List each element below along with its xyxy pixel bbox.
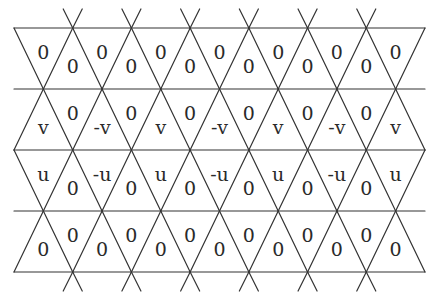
stub-bottom-l-2 bbox=[122, 272, 132, 291]
triangle-label-r4-2: 0 bbox=[67, 224, 79, 246]
triangle-label-r1-11: 0 bbox=[331, 41, 343, 63]
stub-bottom-r-5 bbox=[308, 272, 318, 291]
stub-top-r-5 bbox=[308, 9, 318, 28]
triangle-label-r3-4: 0 bbox=[125, 177, 137, 199]
triangle-label-r1-8: 0 bbox=[243, 55, 255, 77]
stub-top-r-6 bbox=[366, 9, 376, 28]
stub-top-r-3 bbox=[190, 9, 200, 28]
triangle-label-r4-5: 0 bbox=[155, 238, 167, 260]
stub-bottom-l-3 bbox=[181, 272, 191, 291]
triangle-label-r4-13: 0 bbox=[390, 238, 402, 260]
triangle-label-r2-6: 0 bbox=[184, 102, 196, 124]
triangle-label-r1-13: 0 bbox=[390, 41, 402, 63]
triangle-label-r2-8: 0 bbox=[243, 102, 255, 124]
stub-bottom-l-5 bbox=[298, 272, 308, 291]
triangle-label-r4-6: 0 bbox=[184, 224, 196, 246]
triangle-label-r4-4: 0 bbox=[125, 224, 137, 246]
triangle-label-r3-7: -u bbox=[210, 163, 229, 185]
stub-bottom-r-6 bbox=[366, 272, 376, 291]
triangle-label-r1-6: 0 bbox=[184, 55, 196, 77]
triangle-label-r4-8: 0 bbox=[243, 224, 255, 246]
stub-top-l-1 bbox=[63, 9, 73, 28]
triangle-label-r3-2: 0 bbox=[67, 177, 79, 199]
triangle-label-r3-3: -u bbox=[93, 163, 112, 185]
triangle-label-r1-9: 0 bbox=[272, 41, 284, 63]
triangle-label-r1-12: 0 bbox=[360, 55, 372, 77]
triangle-label-r4-1: 0 bbox=[37, 238, 49, 260]
triangle-label-r1-10: 0 bbox=[302, 55, 314, 77]
triangle-label-r1-3: 0 bbox=[96, 41, 108, 63]
stub-top-l-2 bbox=[122, 9, 132, 28]
stub-bottom-l-4 bbox=[239, 272, 249, 291]
triangle-label-r4-7: 0 bbox=[213, 238, 225, 260]
stub-bottom-r-1 bbox=[73, 272, 83, 291]
triangle-label-r2-9: v bbox=[272, 116, 284, 138]
stub-bottom-l-1 bbox=[63, 272, 73, 291]
triangle-label-r1-1: 0 bbox=[37, 41, 49, 63]
triangle-label-r4-10: 0 bbox=[302, 224, 314, 246]
triangle-label-r1-2: 0 bbox=[67, 55, 79, 77]
triangle-label-r2-1: v bbox=[37, 116, 49, 138]
stub-top-l-3 bbox=[181, 9, 191, 28]
lattice-svg: 0000000000000v0-v0v0-v0v0-v0vu0-u0u0-u0u… bbox=[0, 0, 441, 297]
triangle-label-r2-10: 0 bbox=[302, 102, 314, 124]
triangle-labels: 0000000000000v0-v0v0-v0v0-v0vu0-u0u0-u0u… bbox=[37, 41, 402, 259]
triangle-label-r3-11: -u bbox=[328, 163, 347, 185]
triangle-label-r2-4: 0 bbox=[125, 102, 137, 124]
stub-top-l-4 bbox=[239, 9, 249, 28]
stub-top-r-4 bbox=[249, 9, 259, 28]
triangle-label-r3-12: 0 bbox=[360, 177, 372, 199]
stub-top-r-1 bbox=[73, 9, 83, 28]
triangle-label-r4-12: 0 bbox=[360, 224, 372, 246]
triangle-label-r3-9: u bbox=[272, 163, 284, 185]
triangle-label-r3-1: u bbox=[37, 163, 49, 185]
triangular-lattice-diagram: 0000000000000v0-v0v0-v0v0-v0vu0-u0u0-u0u… bbox=[0, 0, 441, 297]
triangle-label-r2-2: 0 bbox=[67, 102, 79, 124]
triangle-label-r3-13: u bbox=[389, 163, 401, 185]
triangle-label-r2-11: -v bbox=[328, 116, 345, 138]
stub-top-l-6 bbox=[357, 9, 367, 28]
stub-bottom-r-3 bbox=[190, 272, 200, 291]
triangle-label-r2-7: -v bbox=[211, 116, 228, 138]
triangle-label-r4-11: 0 bbox=[331, 238, 343, 260]
triangle-label-r1-7: 0 bbox=[213, 41, 225, 63]
triangle-label-r1-4: 0 bbox=[125, 55, 137, 77]
triangle-label-r2-13: v bbox=[389, 116, 401, 138]
triangle-label-r4-3: 0 bbox=[96, 238, 108, 260]
triangle-label-r4-9: 0 bbox=[272, 238, 284, 260]
triangle-label-r1-5: 0 bbox=[155, 41, 167, 63]
triangle-label-r3-6: 0 bbox=[184, 177, 196, 199]
triangle-label-r3-5: u bbox=[155, 163, 167, 185]
stub-bottom-l-6 bbox=[357, 272, 367, 291]
triangle-label-r2-12: 0 bbox=[360, 102, 372, 124]
triangle-label-r2-3: -v bbox=[94, 116, 111, 138]
triangle-label-r3-8: 0 bbox=[243, 177, 255, 199]
stub-bottom-r-2 bbox=[131, 272, 141, 291]
triangle-label-r2-5: v bbox=[154, 116, 166, 138]
stub-top-l-5 bbox=[298, 9, 308, 28]
stub-bottom-r-4 bbox=[249, 272, 259, 291]
triangle-label-r3-10: 0 bbox=[302, 177, 314, 199]
stub-top-r-2 bbox=[131, 9, 141, 28]
